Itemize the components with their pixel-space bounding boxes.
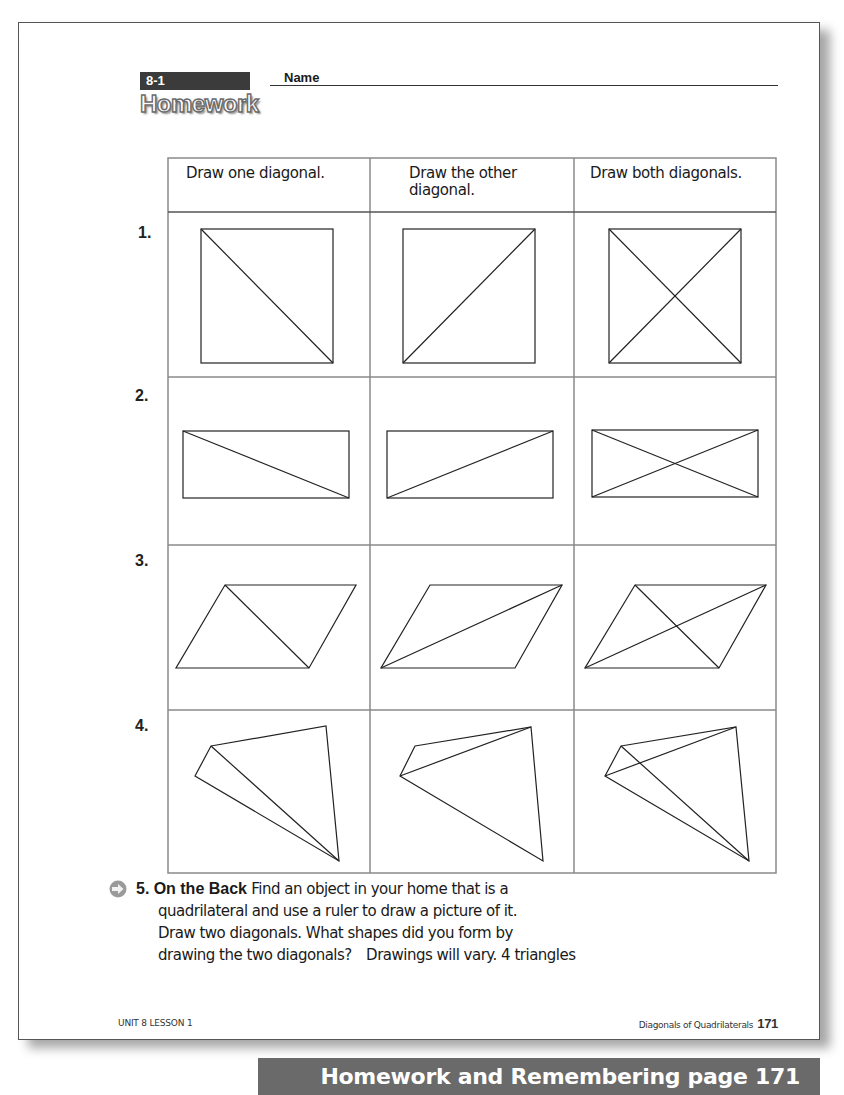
row3-shape-col1 (176, 585, 356, 668)
row3-shape-col3 (585, 585, 766, 668)
row-number-1: 1. (138, 224, 151, 242)
footer-lesson-title: Diagonals of Quadrilaterals171 (639, 1016, 778, 1031)
column-header-2: Draw the other diagonal. (409, 165, 517, 199)
row1-shape-col1 (201, 229, 333, 363)
row2-shape-col3 (592, 430, 758, 497)
question-5-title: On the Back (154, 880, 247, 897)
column-header-1: Draw one diagonal. (186, 165, 325, 182)
question-5: 5. On the Back Find an object in your ho… (136, 878, 696, 966)
row1-shape-col3 (609, 229, 741, 363)
row-number-4: 4. (135, 717, 148, 735)
answer-text: Drawings will vary. 4 triangles (366, 946, 575, 964)
row3-shape-col2 (381, 585, 562, 668)
footer-unit-lesson: UNIT 8 LESSON 1 (118, 1018, 192, 1028)
table-grid (168, 158, 776, 873)
row2-shape-col1 (183, 431, 349, 498)
column-header-3: Draw both diagonals. (590, 165, 742, 182)
row4-shape-col2 (400, 727, 543, 861)
row4-shape-col1 (195, 726, 339, 861)
row-number-2: 2. (135, 387, 148, 405)
page-number: 171 (757, 1016, 778, 1031)
row4-shape-col3 (605, 727, 749, 861)
page-reference-banner: Homework and Remembering page 171 (258, 1058, 820, 1095)
row-number-3: 3. (135, 552, 148, 570)
row2-shape-col2 (387, 431, 553, 498)
arrow-right-icon (108, 880, 128, 898)
question-5-number: 5. (136, 880, 149, 897)
row1-shape-col2 (403, 229, 535, 363)
